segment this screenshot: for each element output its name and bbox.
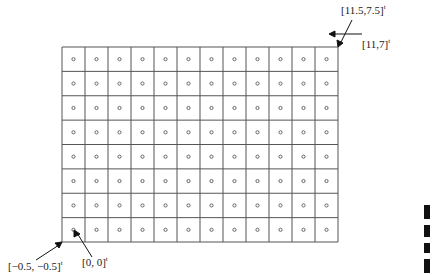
pixel-center-dot-icon [233,179,236,182]
pixel-center-dot-icon [325,82,328,85]
pixel-center-dot-icon [164,228,167,231]
pixel-center-dot-icon [187,179,190,182]
label-text: [11.5,7.5] [341,4,384,16]
pixel-center-dot-icon [95,179,98,182]
pixel-center-dot-icon [210,82,213,85]
pixel-center-dot-icon [325,179,328,182]
label-bottom-left-center: [0, 0]t [82,255,108,268]
pixel-center-dot-icon [256,58,259,61]
pixel-center-dot-icon [302,82,305,85]
pixel-center-dot-icon [325,155,328,158]
pixel-center-dot-icon [187,228,190,231]
transpose-sup: t [384,3,386,11]
pixel-center-dot-icon [95,131,98,134]
pixel-center-dot-icon [118,82,121,85]
pixel-center-dot-icon [302,179,305,182]
pixel-center-dot-icon [72,82,75,85]
transpose-sup: t [388,37,390,45]
pixel-center-dot-icon [141,155,144,158]
pixel-center-dot-icon [256,106,259,109]
pixel-center-dot-icon [279,131,282,134]
pixel-center-dot-icon [187,204,190,207]
pixel-center-dot-icon [187,82,190,85]
pixel-center-dot-icon [210,58,213,61]
pixel-center-dot-icon [233,155,236,158]
label-text: [0, 0] [82,256,106,268]
pixel-center-dot-icon [256,131,259,134]
pixel-center-dot-icon [233,228,236,231]
pixel-center-dot-icon [256,204,259,207]
pixel-center-dot-icon [256,82,259,85]
label-text: [11,7] [362,38,388,50]
pixel-center-dot-icon [279,204,282,207]
pixel-center-dot-icon [164,179,167,182]
pixel-center-dot-icon [164,82,167,85]
pixel-center-dot-icon [302,58,305,61]
pixel-center-dot-icon [118,204,121,207]
pixel-center-dot-icon [210,155,213,158]
pixel-center-dot-icon [233,106,236,109]
pixel-center-dot-icon [302,106,305,109]
pixel-center-dot-icon [95,155,98,158]
pixel-center-dot-icon [141,179,144,182]
pixel-center-dot-icon [118,106,121,109]
pixel-center-dot-icon [118,179,121,182]
pixel-center-dot-icon [95,58,98,61]
pixel-center-dot-icon [141,106,144,109]
pixel-center-dot-icon [325,106,328,109]
pixel-center-dot-icon [302,228,305,231]
pixel-center-dot-icon [72,179,75,182]
pixel-center-dot-icon [164,58,167,61]
pixel-center-dot-icon [72,204,75,207]
pixel-center-dot-icon [164,155,167,158]
label-bottom-left-corner: [−0.5, −0.5]t [8,259,63,272]
pixel-center-dot-icon [279,82,282,85]
pixel-center-dot-icon [210,106,213,109]
pixel-center-dot-icon [141,58,144,61]
pixel-center-dot-icon [118,228,121,231]
label-text: [−0.5, −0.5] [8,260,61,272]
pixel-center-dot-icon [164,131,167,134]
pixel-center-dot-icon [256,228,259,231]
page-margin-mark [424,205,431,273]
pixel-center-dot-icon [233,82,236,85]
pixel-center-dot-icon [118,155,121,158]
pixel-center-dot-icon [72,131,75,134]
pixel-center-dot-icon [302,131,305,134]
pixel-center-dot-icon [233,204,236,207]
arrow-top-right-corner [340,20,352,44]
pixel-center-dot-icon [325,131,328,134]
label-top-right-center: [11,7]t [362,37,390,50]
pixel-center-dot-icon [210,204,213,207]
pixel-center-dot-icon [187,131,190,134]
pixel-center-dot-icon [325,58,328,61]
pixel-center-dot-icon [302,204,305,207]
pixel-center-dot-icon [118,58,121,61]
pixel-center-dot-icon [279,106,282,109]
transpose-sup: t [61,259,63,267]
pixel-center-dot-icon [210,228,213,231]
pixel-center-dot-icon [72,155,75,158]
margin-mark-bar [424,259,430,273]
margin-mark-bar [424,225,430,237]
pixel-center-dot-icon [141,82,144,85]
pixel-center-dot-icon [118,131,121,134]
label-top-right-corner: [11.5,7.5]t [341,3,386,16]
pixel-center-dot-icon [141,131,144,134]
pixel-center-dot-icon [279,58,282,61]
pixel-center-dot-icon [233,58,236,61]
pixel-center-dot-icon [164,204,167,207]
pixel-center-dot-icon [256,179,259,182]
arrow-bottom-left-corner [36,245,59,260]
pixel-center-dot-icon [187,106,190,109]
pixel-center-dot-icon [187,155,190,158]
pixel-center-dot-icon [72,106,75,109]
pixel-center-dot-icon [279,179,282,182]
pixel-center-dot-icon [95,228,98,231]
pixel-center-dot-icon [95,106,98,109]
margin-mark-bar [424,243,430,253]
pixel-center-dot-icon [233,131,236,134]
pixel-center-dot-icon [164,106,167,109]
arrowhead-icon [337,40,343,47]
pixel-center-dot-icon [187,58,190,61]
